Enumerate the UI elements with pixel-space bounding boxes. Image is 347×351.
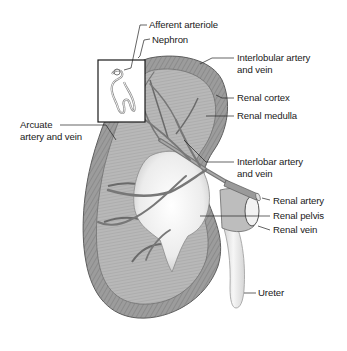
label-text: and vein <box>237 168 303 180</box>
label-interlobular-artery-vein: Interlobular artery and vein <box>237 52 310 75</box>
label-text: Renal vein <box>273 224 317 236</box>
label-text: Renal artery <box>273 195 324 207</box>
label-ureter: Ureter <box>258 287 284 299</box>
label-afferent-arteriole: Afferent arteriole <box>149 19 218 31</box>
label-renal-cortex: Renal cortex <box>237 92 290 104</box>
nephron-inset <box>98 60 145 122</box>
label-text: Interlobar artery <box>237 156 303 168</box>
label-text: Arcuate <box>20 119 82 131</box>
label-text: artery and vein <box>20 131 82 143</box>
label-interlobar-artery-vein: Interlobar artery and vein <box>237 156 303 179</box>
label-nephron: Nephron <box>152 34 188 46</box>
label-renal-vein: Renal vein <box>273 224 317 236</box>
label-renal-medulla: Renal medulla <box>237 110 297 122</box>
label-text: Interlobular artery <box>237 52 310 64</box>
label-renal-pelvis: Renal pelvis <box>273 210 324 222</box>
label-text: Nephron <box>152 34 188 46</box>
label-text: Renal cortex <box>237 92 290 104</box>
label-text: Renal medulla <box>237 110 297 122</box>
label-text: Afferent arteriole <box>149 19 218 31</box>
label-arcuate-artery-vein: Arcuate artery and vein <box>20 119 82 142</box>
label-text: Ureter <box>258 287 284 299</box>
label-text: and vein <box>237 64 310 76</box>
label-renal-artery: Renal artery <box>273 195 324 207</box>
label-text: Renal pelvis <box>273 210 324 222</box>
